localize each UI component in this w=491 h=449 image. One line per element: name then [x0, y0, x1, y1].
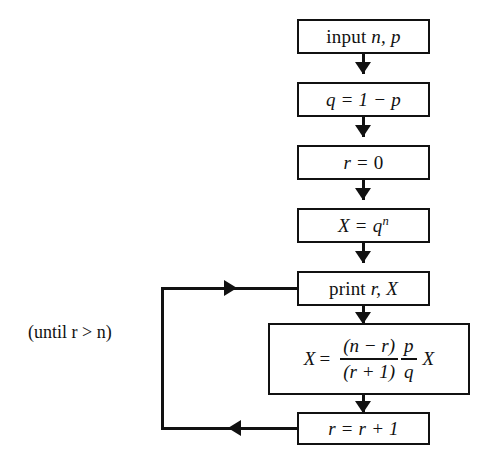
formula-lhs: X [304, 348, 316, 370]
fraction-denominator: (r + 1) [340, 360, 398, 384]
node-print-label: print r, X [329, 279, 398, 298]
node-q-assign-label: q = 1 − p [326, 90, 401, 109]
node-r-init[interactable]: r = 0 [297, 145, 430, 180]
arrow-right-icon [224, 280, 237, 296]
fraction-p-over-q: p q [401, 334, 417, 384]
loop-condition-label: (until r > n) [28, 322, 112, 343]
node-x-init-label: X = qn [338, 216, 389, 235]
node-r-increment[interactable]: r = r + 1 [297, 412, 430, 445]
node-input[interactable]: input n, p [297, 19, 430, 54]
node-r-init-label: r = 0 [343, 153, 383, 172]
node-q-assign[interactable]: q = 1 − p [297, 82, 430, 117]
arrow-down-icon-2 [355, 125, 371, 137]
node-r-increment-label: r = r + 1 [328, 419, 399, 438]
node-input-label: input n, p [326, 27, 400, 46]
arrow-down-icon-4 [355, 251, 371, 263]
node-x-update-formula: X = (n − r) (r + 1) p q X [304, 334, 434, 384]
node-print[interactable]: print r, X [297, 271, 430, 306]
formula-equals: = [319, 348, 330, 370]
node-x-init[interactable]: X = qn [297, 208, 430, 243]
fraction-numerator: (n − r) [340, 334, 398, 358]
arrow-down-icon-3 [355, 188, 371, 200]
formula-trailing-x: X [423, 348, 435, 370]
fraction-small-denominator: q [401, 360, 417, 384]
flowchart-canvas: input n, p q = 1 − p r = 0 X = qn print … [0, 0, 491, 449]
node-x-update[interactable]: X = (n − r) (r + 1) p q X [268, 323, 470, 395]
exponent-n: n [382, 214, 388, 228]
loop-left-segment [161, 287, 164, 430]
arrow-down-icon-1 [355, 62, 371, 74]
fraction-small-numerator: p [401, 334, 417, 358]
arrow-left-icon [228, 420, 241, 436]
fraction-n-minus-r-over-r-plus-1: (n − r) (r + 1) [340, 334, 398, 384]
